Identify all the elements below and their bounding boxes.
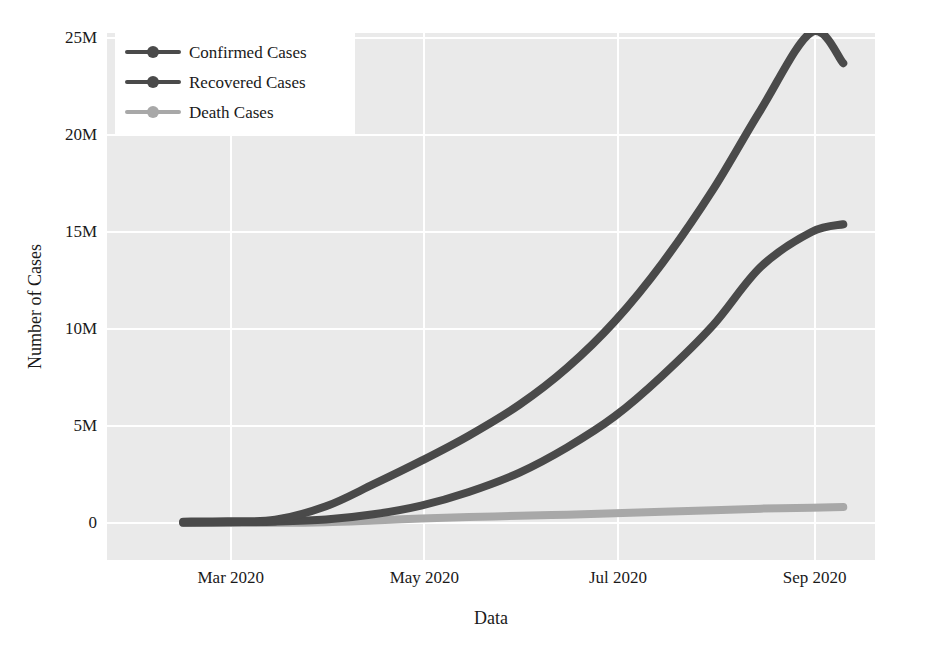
series-line-recovered-cases	[183, 224, 843, 523]
chart-figure: 05M10M15M20M25M Mar 2020May 2020Jul 2020…	[0, 0, 925, 660]
legend-dot-recovered	[147, 76, 159, 88]
legend-item-recovered-cases: Recovered Cases	[125, 67, 345, 97]
legend-item-death-cases: Death Cases	[125, 97, 345, 127]
legend-marker-icon-death	[125, 105, 181, 119]
legend-marker-icon-confirmed	[125, 45, 181, 59]
legend-dot-confirmed	[147, 46, 159, 58]
y-axis-tick-label: 0	[19, 514, 107, 531]
legend-label-death: Death Cases	[189, 103, 274, 122]
legend-label-recovered: Recovered Cases	[189, 73, 306, 92]
legend-item-confirmed-cases: Confirmed Cases	[125, 37, 345, 67]
legend-dot-death	[147, 106, 159, 118]
legend-label-confirmed: Confirmed Cases	[189, 43, 307, 62]
y-axis-tick-label: 25M	[19, 29, 107, 46]
y-axis-tick-labels: 05M10M15M20M25M	[0, 0, 107, 660]
chart-legend: Confirmed Cases Recovered Cases Death Ca…	[115, 29, 355, 136]
x-axis-tick-label: Jul 2020	[589, 568, 647, 587]
x-axis-tick-label: Mar 2020	[197, 568, 264, 587]
y-axis-tick-label: 20M	[19, 126, 107, 143]
x-axis-tick-labels: Mar 2020May 2020Jul 2020Sep 2020	[0, 568, 925, 598]
legend-marker-icon-recovered	[125, 75, 181, 89]
y-axis-title: Number of Cases	[25, 177, 46, 437]
x-axis-title: Data	[107, 608, 875, 629]
x-axis-tick-label: May 2020	[390, 568, 459, 587]
x-axis-tick-label: Sep 2020	[783, 568, 847, 587]
